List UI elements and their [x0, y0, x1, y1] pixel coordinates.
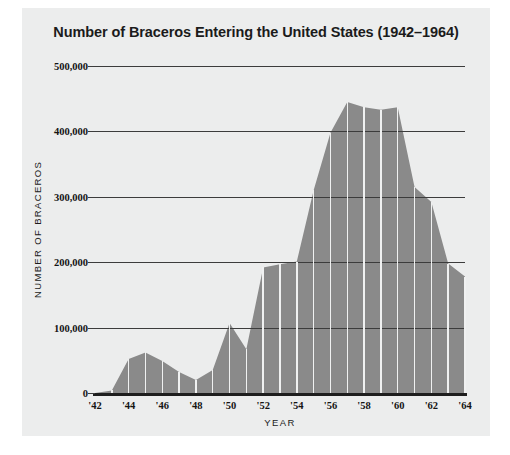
x-tick-label: '44 — [122, 400, 135, 411]
year-divider-1957 — [347, 102, 348, 393]
x-tick-label: '50 — [223, 400, 236, 411]
gridline-400000 — [95, 131, 465, 132]
y-tick-mark — [88, 66, 95, 67]
x-tick-label: '52 — [256, 400, 269, 411]
y-tick-label: 500,000 — [54, 61, 88, 72]
x-tick-label: '62 — [425, 400, 438, 411]
year-divider-1962 — [431, 202, 432, 393]
x-tick-label: '46 — [156, 400, 169, 411]
x-tick-label: '64 — [458, 400, 471, 411]
x-tick-label: '48 — [189, 400, 202, 411]
y-tick-mark — [88, 262, 95, 263]
gridline-200000 — [95, 262, 465, 263]
year-divider-1960 — [397, 107, 398, 393]
x-axis-label: YEAR — [95, 417, 465, 428]
x-tick-label: '42 — [88, 400, 101, 411]
y-axis-label: NUMBER OF BRACEROS — [32, 66, 43, 393]
year-divider-1945 — [145, 352, 146, 393]
chart-panel: Number of Braceros Entering the United S… — [22, 8, 490, 436]
year-divider-1953 — [279, 264, 280, 393]
year-divider-1947 — [178, 372, 179, 393]
year-divider-1963 — [447, 264, 448, 393]
year-divider-1954 — [296, 262, 297, 393]
year-divider-1961 — [414, 187, 415, 393]
year-divider-1944 — [128, 359, 129, 393]
year-divider-1955 — [313, 190, 314, 393]
year-divider-1964 — [464, 277, 465, 393]
x-tick-label: '56 — [324, 400, 337, 411]
year-divider-1943 — [111, 390, 112, 393]
x-tick-label: '58 — [357, 400, 370, 411]
gridline-500000 — [95, 66, 465, 67]
year-divider-1958 — [363, 107, 364, 393]
y-tick-label: 300,000 — [54, 191, 88, 202]
year-divider-1948 — [195, 380, 196, 393]
y-tick-label: 400,000 — [54, 126, 88, 137]
page-title: Number of Braceros Entering the United S… — [22, 24, 490, 40]
year-divider-1952 — [262, 267, 263, 393]
year-divider-1951 — [246, 349, 247, 393]
y-tick-label: 200,000 — [54, 257, 88, 268]
chart-page: Number of Braceros Entering the United S… — [0, 0, 510, 455]
x-tick-label: '54 — [290, 400, 303, 411]
y-tick-mark — [88, 131, 95, 132]
y-tick-label: 100,000 — [54, 322, 88, 333]
x-tick-label: '60 — [391, 400, 404, 411]
year-divider-1959 — [380, 110, 381, 393]
year-divider-1946 — [162, 361, 163, 393]
x-axis-line — [93, 393, 467, 396]
y-tick-mark — [88, 393, 95, 394]
year-divider-1956 — [330, 133, 331, 393]
year-divider-1950 — [229, 323, 230, 393]
y-tick-mark — [88, 328, 95, 329]
y-tick-mark — [88, 197, 95, 198]
plot-area: 0100,000200,000300,000400,000500,000'42'… — [95, 66, 465, 393]
gridline-300000 — [95, 197, 465, 198]
y-tick-label: 0 — [83, 388, 88, 399]
year-divider-1949 — [212, 370, 213, 393]
